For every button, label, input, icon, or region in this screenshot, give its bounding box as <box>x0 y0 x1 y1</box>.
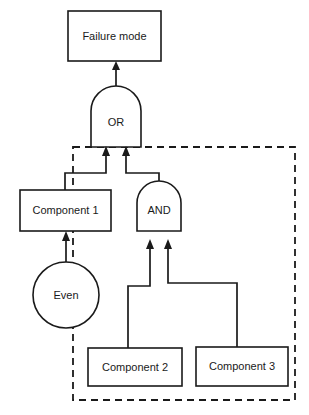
arrow-head-component3-to-and <box>164 239 172 249</box>
arrow-head-event-to-component1 <box>62 231 70 241</box>
connector-component2-to-and-gate <box>128 248 150 348</box>
arrow-head-to-failure-mode <box>112 61 120 70</box>
component-3-label: Component 3 <box>209 360 275 372</box>
basic-event-label: Even <box>53 289 78 301</box>
failure-mode-label: Failure mode <box>82 30 146 42</box>
component-1-label: Component 1 <box>32 204 98 216</box>
or-gate-label: OR <box>108 116 125 128</box>
and-gate-label: AND <box>147 204 170 216</box>
fault-tree-diagram: Failure mode OR Component 1 AND Even Com… <box>0 0 309 415</box>
component-2-label: Component 2 <box>102 361 168 373</box>
arrow-head-component2-to-and <box>146 239 154 249</box>
connector-and-to-or-gate <box>126 155 159 181</box>
connector-component1-to-or-gate <box>65 155 106 190</box>
connector-component3-to-and-gate <box>168 248 237 347</box>
